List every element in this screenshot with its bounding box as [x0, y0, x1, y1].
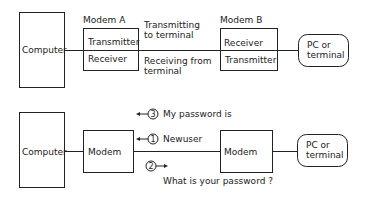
link-upper-label-2: to terminal — [144, 30, 194, 40]
modem-a-receiver: Receiver — [88, 54, 127, 64]
step-3-number: 3 — [151, 110, 156, 119]
computer-label-bottom: Computer — [22, 147, 67, 157]
step-1-text: Newuser — [163, 134, 203, 144]
modem-right-label: Modem — [224, 147, 257, 157]
step-2-number: 2 — [149, 162, 154, 171]
terminal-label-bottom-2: terminal — [306, 150, 344, 160]
step-1-number: 1 — [151, 135, 156, 144]
step-3-text: My password is — [163, 109, 232, 119]
terminal-label-top-1: PC or — [307, 40, 331, 50]
link-upper-label-1: Transmitting — [143, 20, 200, 30]
modem-b-transmitter: Transmitter — [224, 55, 277, 65]
link-lower-label-1: Receiving from — [144, 56, 211, 66]
modem-a-box — [84, 29, 139, 71]
step-2-text: What is your password ? — [163, 176, 273, 186]
link-lower-label-2: terminal — [144, 66, 182, 76]
modem-a-title: Modem A — [83, 15, 126, 25]
modem-b-title: Modem B — [220, 15, 262, 25]
modem-left-label: Modem — [88, 147, 121, 157]
modem-b-receiver: Receiver — [224, 38, 263, 48]
terminal-label-top-2: terminal — [307, 50, 345, 60]
modem-diagram: Computer Modem A Transmitter Receiver Tr… — [0, 0, 366, 199]
terminal-label-bottom-1: PC or — [306, 140, 330, 150]
modem-a-transmitter: Transmitter — [87, 37, 140, 47]
computer-label-top: Computer — [22, 45, 67, 55]
